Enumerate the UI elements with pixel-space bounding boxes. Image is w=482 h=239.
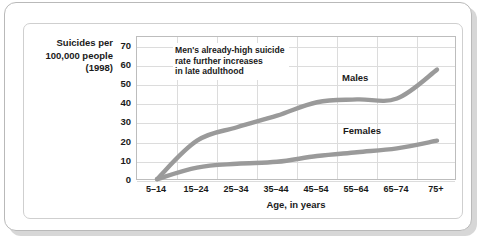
figure-outer-frame: Suicides per 100,000 people (1998) 01020… — [4, 2, 472, 231]
y-tick-40: 40 — [109, 97, 131, 108]
males-trend-callout: Men's already-high suicide rate further … — [173, 43, 289, 80]
callout-line-2: rate further increases — [175, 56, 285, 67]
y-tick-60: 60 — [109, 59, 131, 70]
y-tick-0: 0 — [109, 174, 131, 185]
x-tick-3: 35–44 — [263, 184, 288, 194]
y-axis-title-line-1: Suicides per — [13, 37, 113, 50]
x-tick-0: 5–14 — [146, 184, 166, 194]
x-axis-title: Age, in years — [136, 199, 456, 210]
y-axis-title-line-3: (1998) — [13, 62, 113, 75]
series-line-males — [157, 70, 437, 179]
y-tick-30: 30 — [109, 116, 131, 127]
callout-line-1: Men's already-high suicide — [175, 45, 285, 56]
callout-line-3: in late adulthood — [175, 66, 285, 77]
x-tick-5: 55–64 — [343, 184, 368, 194]
series-label-males: Males — [342, 72, 368, 83]
y-tick-10: 10 — [109, 155, 131, 166]
x-tick-4: 45–54 — [303, 184, 328, 194]
y-tick-70: 70 — [109, 40, 131, 51]
y-axis-title-line-2: 100,000 people — [13, 50, 113, 63]
y-axis-title: Suicides per 100,000 people (1998) — [13, 37, 113, 75]
series-label-females: Females — [343, 125, 381, 136]
x-tick-7: 75+ — [428, 184, 443, 194]
y-tick-50: 50 — [109, 78, 131, 89]
x-tick-2: 25–34 — [223, 184, 248, 194]
x-tick-1: 15–24 — [183, 184, 208, 194]
y-tick-20: 20 — [109, 136, 131, 147]
x-tick-6: 65–74 — [383, 184, 408, 194]
gridline-y-0 — [137, 181, 455, 182]
series-line-females — [157, 141, 437, 179]
